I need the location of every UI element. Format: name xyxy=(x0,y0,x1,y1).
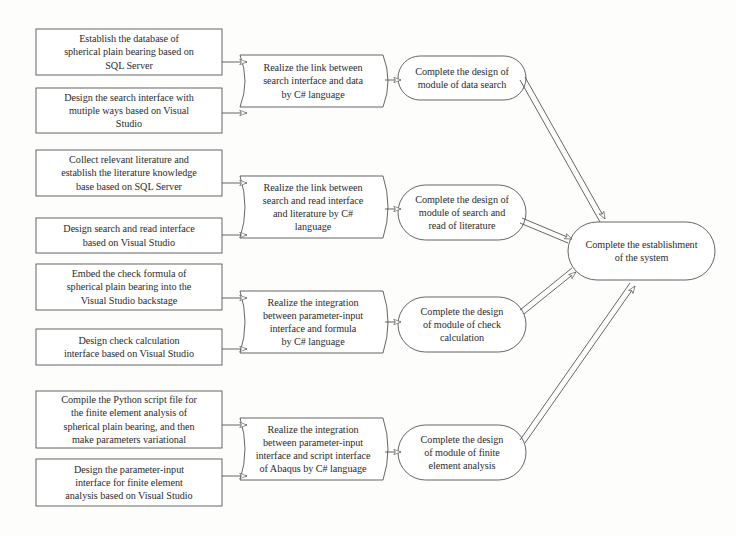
connector-module1-system xyxy=(520,77,605,222)
task-box-7 xyxy=(36,391,222,448)
module-shape-1 xyxy=(398,56,526,100)
realize-shape-4 xyxy=(240,418,388,480)
realize-shape-1 xyxy=(240,55,388,107)
module-shape-2 xyxy=(398,185,526,240)
realize-shape-3 xyxy=(240,291,388,353)
module-shape-4 xyxy=(398,425,526,480)
realize-shape-2 xyxy=(240,176,388,238)
flowchart-canvas: Establish the database ofspherical plain… xyxy=(0,0,736,536)
flowchart-graphics xyxy=(0,0,736,536)
task-box-1 xyxy=(36,29,222,75)
task-box-6 xyxy=(36,329,222,365)
task-box-2 xyxy=(36,88,222,133)
system-shape xyxy=(568,222,715,280)
task-box-3 xyxy=(36,150,222,196)
connector-module4-system xyxy=(520,283,635,443)
task-box-8 xyxy=(36,459,222,506)
task-box-4 xyxy=(36,218,222,253)
task-box-5 xyxy=(36,264,222,310)
module-shape-3 xyxy=(398,297,526,352)
connector-module2-system xyxy=(520,218,572,243)
connector-module3-system xyxy=(520,268,576,314)
